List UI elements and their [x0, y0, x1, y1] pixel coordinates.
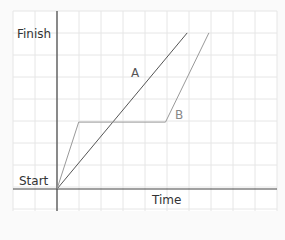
finish-label: Finish: [17, 27, 51, 41]
series-a-label: A: [131, 66, 139, 80]
x-axis-label: Time: [152, 193, 181, 207]
series-b-label: B: [175, 108, 183, 122]
start-label: Start: [19, 174, 48, 188]
